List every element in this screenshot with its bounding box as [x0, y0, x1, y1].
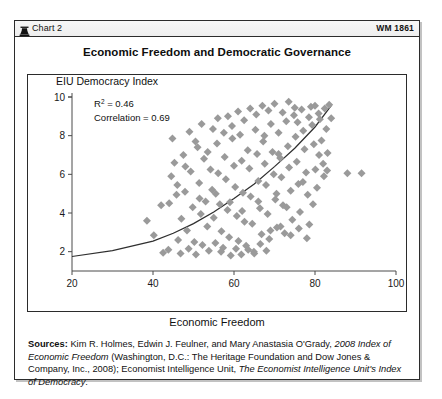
scatter-point — [227, 252, 235, 260]
scatter-point — [168, 135, 176, 143]
scatter-point — [228, 122, 236, 130]
scatter-point — [203, 223, 211, 231]
scatter-point — [246, 105, 254, 113]
scatter-point — [185, 245, 193, 253]
scatter-point — [298, 106, 306, 114]
document-header: Chart 2 WM 1861 — [15, 21, 419, 37]
scatter-point — [233, 212, 241, 220]
scatter-point — [247, 193, 255, 201]
sources-text-3: . — [85, 377, 88, 387]
chart-number-label: Chart 2 — [32, 24, 62, 33]
scatter-point — [248, 220, 256, 228]
chart-plot-area: 24681020406080100EIU Democracy Index R2 … — [27, 74, 407, 312]
scatter-point — [254, 197, 262, 205]
scatter-point — [222, 175, 230, 183]
scatter-point — [167, 172, 175, 180]
scatter-point — [205, 247, 213, 255]
scatter-point — [209, 125, 217, 133]
scatter-point — [187, 167, 195, 175]
y-axis-title: EIU Democracy Index — [56, 75, 159, 87]
scatter-point — [213, 139, 221, 147]
scatter-point — [224, 112, 232, 120]
scatter-point — [315, 109, 323, 117]
scatter-point — [327, 114, 335, 122]
scatter-point — [268, 148, 276, 156]
document-body: Economic Freedom and Democratic Governan… — [15, 46, 419, 388]
scatter-point — [291, 104, 299, 112]
scatter-point — [311, 166, 319, 174]
x-tick-label: 80 — [309, 278, 321, 289]
scatter-point — [294, 118, 302, 126]
scatter-point — [241, 218, 249, 226]
scatter-point — [181, 163, 189, 171]
scatter-point — [221, 153, 229, 161]
scatter-point — [204, 148, 212, 156]
screenshot-root: Chart 2 WM 1861 Economic Freedom and Dem… — [0, 0, 442, 399]
scatter-point — [177, 215, 185, 223]
scatter-point — [287, 187, 295, 195]
scatter-chart-svg: 24681020406080100EIU Democracy Index R2 … — [28, 75, 406, 311]
x-tick-label: 60 — [228, 278, 240, 289]
scatter-point — [170, 159, 178, 167]
scatter-point — [210, 214, 218, 222]
scatter-point — [207, 166, 215, 174]
scatter-point — [299, 127, 307, 135]
scatter-point — [305, 221, 313, 229]
scatter-point — [262, 247, 270, 255]
sources-label: Sources: — [28, 339, 68, 349]
scatter-point — [197, 210, 205, 218]
scatter-point — [260, 132, 268, 140]
scatter-point — [245, 165, 253, 173]
scatter-point — [174, 236, 182, 244]
scatter-point — [252, 110, 260, 118]
scatter-point — [157, 201, 165, 209]
scatter-point — [285, 164, 293, 172]
scatter-point — [313, 184, 321, 192]
scatter-point — [343, 169, 351, 177]
scatter-point — [310, 140, 318, 148]
scatter-point — [234, 108, 242, 116]
scatter-point — [271, 195, 279, 203]
scatter-point — [293, 158, 301, 166]
scatter-point — [315, 151, 323, 159]
scatter-point — [317, 137, 325, 145]
scatter-point — [179, 151, 187, 159]
scatter-point — [309, 200, 317, 208]
scatter-point — [292, 133, 300, 141]
scatter-point — [271, 100, 279, 108]
scatter-point — [236, 131, 244, 139]
x-tick-label: 20 — [66, 278, 78, 289]
correlation-annotation: Correlation = 0.69 — [94, 112, 170, 123]
scatter-point — [258, 102, 266, 110]
scatter-point — [217, 227, 225, 235]
scatter-point — [244, 146, 252, 154]
scatter-point — [277, 173, 285, 181]
y-tick-label: 2 — [59, 246, 65, 257]
scatter-point — [256, 240, 264, 248]
scatter-point — [264, 107, 272, 115]
scatter-point — [290, 111, 298, 119]
scatter-point — [228, 135, 236, 143]
scatter-point — [273, 190, 281, 198]
scatter-point — [225, 233, 233, 241]
scatter-point — [262, 181, 270, 189]
scatter-point — [284, 142, 292, 150]
scatter-point — [288, 216, 296, 224]
scatter-point — [216, 200, 224, 208]
y-tick-label: 8 — [59, 130, 65, 141]
scatter-point — [256, 204, 264, 212]
y-tick-label: 10 — [54, 92, 66, 103]
scatter-point — [261, 160, 269, 168]
scatter-point — [189, 203, 197, 211]
scatter-point — [259, 137, 267, 145]
chart-annotations: R2 = 0.46Correlation = 0.69 — [94, 98, 170, 124]
scatter-point — [281, 229, 289, 237]
scatter-point — [224, 206, 232, 214]
scatter-point — [232, 245, 240, 253]
scatter-point — [305, 113, 313, 121]
x-tick-label: 40 — [147, 278, 159, 289]
scatter-point — [181, 188, 189, 196]
scatter-point — [282, 117, 290, 125]
sources-note: Sources: Kim R. Holmes, Edwin J. Feulner… — [28, 338, 406, 388]
chart-points — [143, 98, 366, 260]
